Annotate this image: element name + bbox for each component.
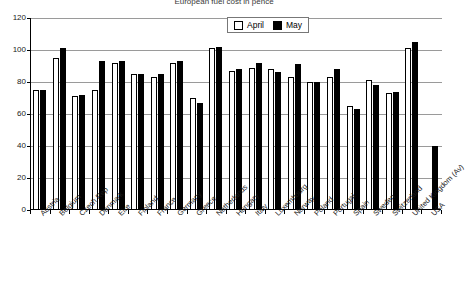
y-axis-tick-label: 60	[0, 110, 26, 118]
legend-item-may: May	[273, 20, 302, 30]
bar-group	[30, 18, 50, 210]
bar-may	[40, 90, 46, 210]
y-axis-tick-label: 20	[0, 174, 26, 182]
bar-group	[422, 18, 442, 210]
bar-group	[69, 18, 89, 210]
bar-group	[167, 18, 187, 210]
bar-april	[366, 80, 372, 210]
bar-may	[256, 63, 262, 210]
bar-group	[382, 18, 402, 210]
bar-group	[108, 18, 128, 210]
bar-may	[216, 47, 222, 210]
bar-group	[187, 18, 207, 210]
bar-group	[128, 18, 148, 210]
bar-april	[33, 90, 39, 210]
bar-group	[363, 18, 383, 210]
y-axis-tick-label: 0	[0, 206, 26, 214]
bar-group	[304, 18, 324, 210]
bar-group	[285, 18, 305, 210]
bar-series-container	[30, 18, 441, 210]
bar-may	[79, 95, 85, 210]
white-square-icon	[234, 21, 243, 30]
bar-group	[50, 18, 70, 210]
legend-label: April	[247, 20, 264, 30]
black-square-icon	[273, 21, 282, 30]
bar-april	[112, 63, 118, 210]
bar-may	[314, 82, 320, 210]
bar-group	[324, 18, 344, 210]
y-axis-tick-label: 80	[0, 78, 26, 86]
chart-title: European fuel cost in pence	[0, 0, 448, 6]
bar-may	[138, 74, 144, 210]
bar-may	[393, 92, 399, 210]
bar-april	[307, 82, 313, 210]
bar-april	[170, 63, 176, 210]
legend-label: May	[286, 20, 302, 30]
bar-april	[151, 77, 157, 210]
legend-item-april: April	[234, 20, 264, 30]
bar-group	[402, 18, 422, 210]
bar-group	[343, 18, 363, 210]
y-axis-tick-label: 120	[0, 14, 26, 22]
bar-may	[334, 69, 340, 210]
bar-april	[53, 58, 59, 210]
chart-legend: AprilMay	[227, 17, 309, 33]
bar-group	[265, 18, 285, 210]
bar-april	[229, 71, 235, 210]
bar-april	[327, 77, 333, 210]
bar-april	[131, 74, 137, 210]
bar-may	[275, 72, 281, 210]
x-axis-labels: AustriaBelgiumCzech RepDenmarkEireFinlan…	[30, 212, 441, 300]
bar-may	[60, 48, 66, 210]
bar-may	[158, 74, 164, 210]
bar-april	[405, 48, 411, 210]
bar-group	[89, 18, 109, 210]
bar-may	[177, 61, 183, 210]
bar-group	[206, 18, 226, 210]
bar-group	[147, 18, 167, 210]
bar-group	[226, 18, 246, 210]
bar-may	[373, 85, 379, 210]
bar-april	[209, 48, 215, 210]
y-axis-tick-label: 100	[0, 46, 26, 54]
bar-group	[245, 18, 265, 210]
y-axis-tick-label: 40	[0, 142, 26, 150]
bar-may	[119, 61, 125, 210]
bar-april	[268, 69, 274, 210]
